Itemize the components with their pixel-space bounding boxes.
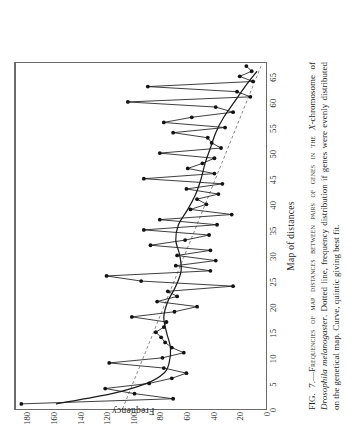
x-tick-10: 10 <box>268 354 278 363</box>
data-point-markers <box>19 64 254 406</box>
x-tick-45: 45 <box>268 175 278 184</box>
chart-svg <box>16 61 269 409</box>
y-tick-180: 180 <box>22 412 32 425</box>
x-tick-30: 30 <box>268 252 278 261</box>
y-tick-20: 20 <box>235 412 245 421</box>
x-tick-5: 5 <box>268 382 278 386</box>
observed-data-polyline <box>21 66 253 404</box>
x-tick-55: 55 <box>268 124 278 133</box>
quintic-fit-curve <box>56 71 257 404</box>
figure-container: 05101520253035404550556065 Map of distan… <box>0 0 360 428</box>
x-tick-40: 40 <box>268 201 278 210</box>
y-tick-0: 0 <box>262 412 272 416</box>
caption-figure-label: FIG. 7.—Frequencies of map distances bet… <box>307 130 317 410</box>
figure-plate: 05101520253035404550556065 Map of distan… <box>0 0 360 428</box>
caption-segment-2: -chromosome of <box>307 62 317 125</box>
x-tick-35: 35 <box>268 226 278 235</box>
x-tick-20: 20 <box>268 303 278 312</box>
x-axis-title: Map of distances <box>286 62 296 410</box>
caption-species-italic: Drosophila melanogaster <box>319 317 329 410</box>
x-tick-50: 50 <box>268 150 278 159</box>
chart-plot-area <box>14 62 267 410</box>
x-tick-15: 15 <box>268 329 278 338</box>
x-tick-60: 60 <box>268 99 278 108</box>
caption-chromosome-italic: X <box>307 125 317 131</box>
y-tick-160: 160 <box>49 412 59 425</box>
y-axis-title: Frequency <box>78 406 188 416</box>
figure-caption: FIG. 7.—Frequencies of map distances bet… <box>306 62 342 410</box>
y-tick-40: 40 <box>209 412 219 421</box>
x-tick-65: 65 <box>268 73 278 82</box>
x-tick-25: 25 <box>268 278 278 287</box>
